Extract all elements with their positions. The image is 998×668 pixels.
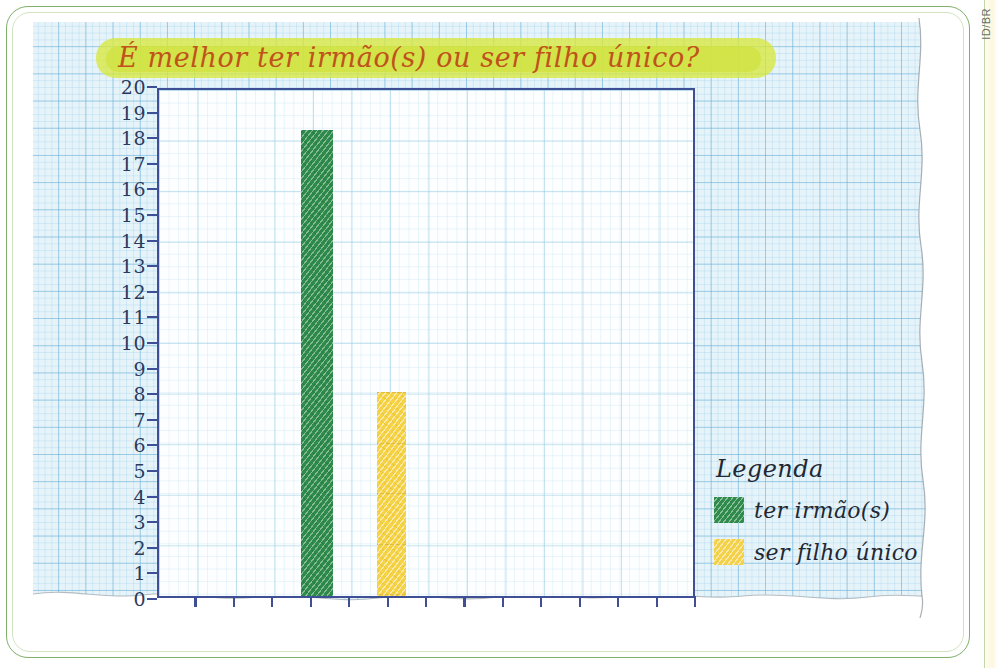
y-axis-tick-mark-13 <box>147 265 157 267</box>
bar-ter-irmaos <box>301 130 333 596</box>
legend-heading: Legenda <box>716 455 934 483</box>
y-axis-tick-mark-7 <box>147 419 157 421</box>
y-axis-tick-mark-16 <box>147 188 157 190</box>
x-axis-tick-mark-8 <box>463 596 465 607</box>
y-axis-tick-mark-19 <box>147 112 157 114</box>
credit-label: ID/BR <box>980 8 992 40</box>
x-axis-ticks <box>157 596 697 608</box>
x-axis-tick-mark-14 <box>694 596 696 607</box>
worksheet-page: É melhor ter irmão(s) ou ser filho único… <box>0 0 998 668</box>
right-band-rule <box>984 0 986 668</box>
y-axis-tick-mark-10 <box>147 342 157 344</box>
legend-label-ter-irmaos: ter irmão(s) <box>754 498 890 523</box>
legend-swatch-green <box>714 497 744 523</box>
x-axis-tick-mark-4 <box>310 596 312 607</box>
legend-swatch-yellow <box>714 539 744 565</box>
x-axis-tick-mark-3 <box>271 596 273 607</box>
x-axis-tick-mark-1 <box>194 596 196 607</box>
x-axis-tick-mark-5 <box>348 596 350 607</box>
x-axis-tick-mark-6 <box>387 596 389 607</box>
bar-ser-filho-unico <box>377 392 406 596</box>
y-axis-tick-mark-0 <box>147 598 157 600</box>
bar-fill-yellow <box>377 392 406 596</box>
x-axis-tick-mark-13 <box>656 596 658 607</box>
y-axis-tick-mark-12 <box>147 291 157 293</box>
bar-fill-green <box>301 130 333 596</box>
y-axis-tick-mark-2 <box>147 547 157 549</box>
y-axis-tick-mark-1 <box>147 572 157 574</box>
y-axis: 20191817161514131211109876543210 <box>100 76 158 610</box>
x-axis-tick-mark-9 <box>502 596 504 607</box>
y-axis-tick-mark-17 <box>147 163 157 165</box>
x-axis-tick-mark-12 <box>617 596 619 607</box>
y-axis-tick-mark-15 <box>147 214 157 216</box>
x-axis-tick-mark-11 <box>579 596 581 607</box>
y-axis-tick-mark-3 <box>147 521 157 523</box>
x-axis-tick-mark-2 <box>233 596 235 607</box>
legend-item-ser-filho-unico: ser filho único <box>714 539 934 565</box>
y-axis-tick-mark-6 <box>147 444 157 446</box>
y-axis-tick-mark-11 <box>147 316 157 318</box>
y-axis-tick-mark-4 <box>147 496 157 498</box>
y-axis-tick-mark-5 <box>147 470 157 472</box>
y-axis-tick-mark-8 <box>147 393 157 395</box>
x-axis-tick-mark-7 <box>425 596 427 607</box>
plot-area <box>157 88 695 598</box>
legend-item-ter-irmaos: ter irmão(s) <box>714 497 934 523</box>
y-axis-tick-mark-14 <box>147 240 157 242</box>
chart-title: É melhor ter irmão(s) ou ser filho único… <box>118 36 778 80</box>
legend: Legenda ter irmão(s) ser filho único <box>714 455 934 600</box>
right-color-band <box>984 0 998 668</box>
x-axis-tick-mark-10 <box>540 596 542 607</box>
y-axis-tick-mark-18 <box>147 137 157 139</box>
y-axis-tick-mark-9 <box>147 368 157 370</box>
legend-label-ser-filho-unico: ser filho único <box>754 540 918 565</box>
chart-title-block: É melhor ter irmão(s) ou ser filho único… <box>96 34 786 82</box>
y-axis-tick-mark-20 <box>147 86 157 88</box>
